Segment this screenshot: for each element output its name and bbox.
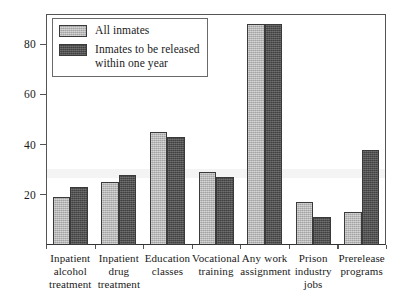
- grouped-bar-chart: 20406080 InpatientalcoholtreatmentInpati…: [0, 0, 400, 308]
- x-axis-category-label-line: Vocational: [192, 252, 241, 265]
- x-axis-category-label-line: Education: [143, 252, 192, 265]
- x-axis-category-label: Inpatientdrugtreatment: [95, 252, 144, 292]
- x-axis-category-label-line: alcohol: [46, 265, 95, 278]
- x-axis-category-label-line: drug: [95, 265, 144, 278]
- legend-swatch-released-within-one-year: [59, 44, 87, 56]
- x-axis-category-label-line: Any work: [240, 252, 289, 265]
- x-axis-category-label: Prereleaseprograms: [337, 252, 386, 278]
- bar: [265, 24, 283, 245]
- x-axis-category-label-line: Prison: [289, 252, 338, 265]
- x-axis-labels: InpatientalcoholtreatmentInpatientdrugtr…: [46, 252, 386, 308]
- bar: [167, 137, 185, 245]
- legend-label-all-inmates: All inmates: [95, 24, 149, 37]
- x-axis-ticks: [46, 245, 386, 250]
- x-axis-category-label: Prisonindustryjobs: [289, 252, 338, 292]
- x-axis-category-label-line: jobs: [289, 278, 338, 291]
- bar: [313, 217, 331, 245]
- x-axis-category-label-line: classes: [143, 265, 192, 278]
- bar: [296, 202, 314, 245]
- x-tick-mark: [143, 245, 144, 249]
- bar: [216, 177, 234, 245]
- bar: [362, 150, 380, 245]
- x-axis-category-label-line: assignment: [240, 265, 289, 278]
- y-tick-label: 20: [24, 187, 36, 203]
- bar: [70, 187, 88, 245]
- x-tick-mark: [337, 245, 338, 249]
- x-tick-mark: [289, 245, 290, 249]
- bar: [247, 24, 265, 245]
- x-axis-category-label-line: industry: [289, 265, 338, 278]
- x-axis-category-label: Inpatientalcoholtreatment: [46, 252, 95, 292]
- chart-legend: All inmates Inmates to be released withi…: [52, 18, 208, 77]
- x-axis-category-label: Any workassignment: [240, 252, 289, 278]
- x-tick-mark: [192, 245, 193, 249]
- legend-item-released-within-one-year: Inmates to be released within one year: [59, 43, 200, 70]
- legend-item-all-inmates: All inmates: [59, 24, 200, 37]
- bar-group: [344, 14, 379, 245]
- x-axis-category-label: Educationclasses: [143, 252, 192, 278]
- x-axis-category-label-line: programs: [337, 265, 386, 278]
- x-axis-category-label-line: treatment: [95, 278, 144, 291]
- bar-group: [247, 14, 282, 245]
- x-tick-mark: [240, 245, 241, 249]
- x-axis-category-label: Vocationaltraining: [192, 252, 241, 278]
- bar: [199, 172, 217, 245]
- y-tick-label: 60: [24, 86, 36, 102]
- legend-swatch-all-inmates: [59, 25, 87, 37]
- bar: [344, 212, 362, 245]
- x-axis-category-label-line: treatment: [46, 278, 95, 291]
- y-tick-label: 80: [24, 36, 36, 52]
- bar-group: [296, 14, 331, 245]
- x-tick-mark: [95, 245, 96, 249]
- x-axis-category-label-line: Inpatient: [46, 252, 95, 265]
- x-tick-mark: [386, 245, 387, 249]
- bar: [53, 197, 71, 245]
- x-axis-category-label-line: training: [192, 265, 241, 278]
- x-tick-mark: [46, 245, 47, 249]
- bar: [150, 132, 168, 245]
- x-axis-category-label-line: Prerelease: [337, 252, 386, 265]
- x-axis-category-label-line: Inpatient: [95, 252, 144, 265]
- y-axis: 20406080: [0, 0, 46, 308]
- bar: [101, 182, 119, 245]
- bar: [119, 175, 137, 245]
- y-tick-label: 40: [24, 137, 36, 153]
- legend-label-released-within-one-year: Inmates to be released within one year: [95, 43, 200, 70]
